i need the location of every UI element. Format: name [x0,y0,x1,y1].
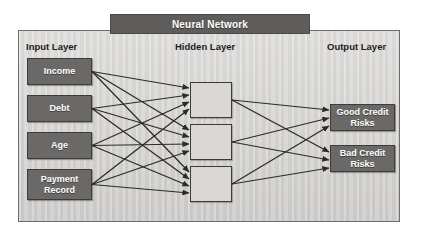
input-layer-caption: Input Layer [26,41,77,52]
output-layer-caption: Output Layer [327,41,386,52]
input-node-payment-record[interactable]: Payment Record [27,169,92,200]
input-node-label: Income [44,66,76,77]
hidden-node-3[interactable] [190,166,232,202]
input-node-label: Age [51,140,68,151]
hidden-layer-caption: Hidden Layer [175,41,235,52]
input-node-label: Debt [50,103,70,114]
hidden-node-2[interactable] [190,124,232,160]
output-node-bad-credit-risks[interactable]: Bad Credit Risks [330,145,395,172]
hidden-node-1[interactable] [190,82,232,118]
diagram-title: Neural Network [172,19,248,30]
output-node-good-credit-risks[interactable]: Good Credit Risks [330,104,395,131]
input-node-debt[interactable]: Debt [27,95,92,122]
output-node-label: Good Credit Risks [331,107,394,128]
diagram-title-bar: Neural Network [110,14,310,34]
output-node-label: Bad Credit Risks [331,148,394,169]
input-node-age[interactable]: Age [27,132,92,159]
input-node-income[interactable]: Income [27,58,92,85]
input-node-label: Payment Record [28,174,91,195]
diagram-canvas: Neural Network Input Layer Hidden Layer … [0,0,423,237]
